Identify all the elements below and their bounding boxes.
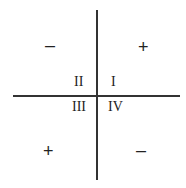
quadrant-iii-sign: + — [43, 142, 54, 160]
quadrant-iii-label: III — [72, 100, 86, 114]
quadrant-iv-label: IV — [108, 100, 123, 114]
quadrant-i-label: I — [111, 75, 116, 89]
quadrant-ii-sign: – — [45, 36, 55, 54]
quadrant-ii-label: II — [74, 75, 83, 89]
quadrant-i-sign: + — [138, 38, 149, 56]
horizontal-axis — [13, 95, 180, 97]
quadrant-iv-sign: – — [136, 141, 146, 159]
